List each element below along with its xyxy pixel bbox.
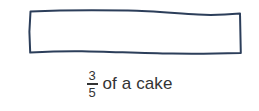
fraction-denominator: 5 bbox=[87, 86, 96, 99]
fraction-numerator: 3 bbox=[87, 69, 96, 82]
fraction-diagram-figure: 3 5 of a cake bbox=[0, 0, 259, 111]
fraction-three-fifths: 3 5 bbox=[87, 69, 98, 99]
whole-cake-rectangle-shape bbox=[0, 0, 259, 64]
cake-rectangle-outline-path bbox=[29, 10, 240, 53]
caption-row: 3 5 of a cake bbox=[0, 62, 259, 106]
caption-label: of a cake bbox=[103, 74, 173, 94]
